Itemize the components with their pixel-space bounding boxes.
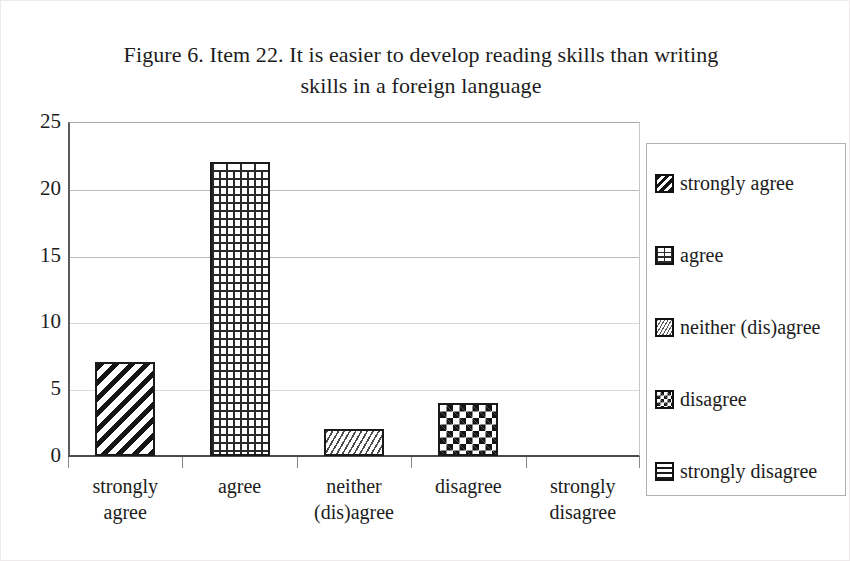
x-axis-label-1: agree bbox=[182, 473, 296, 499]
x-axis-ticks bbox=[68, 457, 640, 469]
chart-legend: strongly agreeagreeneither (dis)agreedis… bbox=[646, 143, 846, 496]
x-axis-label-0: stronglyagree bbox=[68, 473, 182, 525]
bar-slot bbox=[182, 122, 296, 456]
x-axis-label-2: neither(dis)agree bbox=[297, 473, 411, 525]
x-axis-label-3: disagree bbox=[411, 473, 525, 499]
y-axis-label-20: 20 bbox=[15, 178, 61, 199]
x-axis-label-line: strongly bbox=[68, 473, 182, 499]
x-axis-tick bbox=[526, 457, 527, 468]
bar[interactable] bbox=[438, 403, 498, 456]
y-axis-label-15: 15 bbox=[15, 245, 61, 266]
bar-slot bbox=[526, 122, 640, 456]
legend-swatch-icon bbox=[655, 246, 674, 265]
x-axis-label-line: disagree bbox=[526, 499, 640, 525]
legend-item-2[interactable]: neither (dis)agree bbox=[655, 314, 820, 340]
legend-label: neither (dis)agree bbox=[680, 317, 820, 337]
x-axis-label-line: agree bbox=[182, 473, 296, 499]
y-axis-label-10: 10 bbox=[15, 311, 61, 332]
legend-item-0[interactable]: strongly agree bbox=[655, 170, 794, 196]
x-axis-label-line: (dis)agree bbox=[297, 499, 411, 525]
y-axis-labels: 2520151050 bbox=[9, 1, 61, 561]
legend-item-4[interactable]: strongly disagree bbox=[655, 458, 817, 484]
y-axis-label-5: 5 bbox=[15, 378, 61, 399]
legend-swatch-icon bbox=[655, 318, 674, 337]
bar[interactable] bbox=[95, 362, 155, 456]
bar[interactable] bbox=[210, 162, 270, 456]
x-axis-tick bbox=[182, 457, 183, 468]
bar-slot bbox=[297, 122, 411, 456]
legend-item-1[interactable]: agree bbox=[655, 242, 723, 268]
x-axis-label-line: disagree bbox=[411, 473, 525, 499]
bars-layer bbox=[68, 122, 640, 456]
legend-swatch-icon bbox=[655, 390, 674, 409]
x-axis-tick bbox=[68, 457, 69, 468]
y-axis-label-0: 0 bbox=[15, 445, 61, 466]
legend-label: strongly disagree bbox=[680, 461, 817, 481]
chart-title: Figure 6. Item 22. It is easier to devel… bbox=[71, 39, 771, 101]
legend-label: agree bbox=[680, 245, 723, 265]
x-axis-label-4: stronglydisagree bbox=[526, 473, 640, 525]
legend-label: disagree bbox=[680, 389, 747, 409]
y-axis-label-25: 25 bbox=[15, 111, 61, 132]
x-axis-tick bbox=[297, 457, 298, 468]
legend-swatch-icon bbox=[655, 174, 674, 193]
x-axis-label-line: agree bbox=[68, 499, 182, 525]
bar-slot bbox=[68, 122, 182, 456]
x-axis-tick bbox=[639, 457, 640, 468]
legend-item-3[interactable]: disagree bbox=[655, 386, 747, 412]
chart-title-line-1: Figure 6. Item 22. It is easier to devel… bbox=[71, 39, 771, 70]
x-axis-label-line: neither bbox=[297, 473, 411, 499]
legend-label: strongly agree bbox=[680, 173, 794, 193]
chart-page: Figure 6. Item 22. It is easier to devel… bbox=[0, 0, 850, 561]
x-axis-tick bbox=[411, 457, 412, 468]
bar-slot bbox=[411, 122, 525, 456]
x-axis-labels: stronglyagreeagreeneither(dis)agreedisag… bbox=[68, 473, 640, 543]
chart-title-line-2: skills in a foreign language bbox=[71, 70, 771, 101]
x-axis-label-line: strongly bbox=[526, 473, 640, 499]
legend-swatch-icon bbox=[655, 462, 674, 481]
bar[interactable] bbox=[324, 429, 384, 456]
